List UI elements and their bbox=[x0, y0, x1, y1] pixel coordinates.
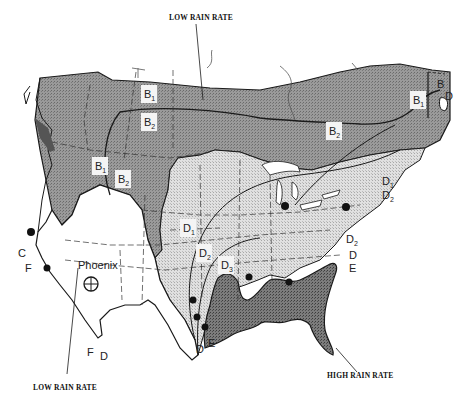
station-dot bbox=[281, 202, 289, 210]
svg-text:B: B bbox=[437, 78, 444, 90]
boundary-label-e-coast: E bbox=[349, 262, 356, 274]
boundary-label-d-northeast: D bbox=[445, 90, 453, 102]
region-e bbox=[204, 263, 336, 355]
boundary-label-e-gulf: E bbox=[208, 337, 215, 349]
boundary-label-f-southwest: F bbox=[87, 346, 94, 358]
zone-label-b2-east: B2 bbox=[326, 122, 342, 140]
zone-label-d1: D1 bbox=[180, 219, 196, 237]
boundary-label-d2-east: D2 bbox=[382, 189, 394, 203]
boundary-label-d-coast: D bbox=[349, 249, 357, 261]
zone-label-b2-west: B2 bbox=[115, 170, 131, 188]
callout-low-rain-top: LOW RAIN RATE bbox=[169, 13, 233, 22]
boundary-label-d-gulf: D bbox=[196, 343, 204, 355]
boundary-label-f-west: F bbox=[25, 262, 32, 274]
station-dot bbox=[202, 324, 209, 331]
station-dot bbox=[342, 203, 350, 211]
station-dot bbox=[194, 314, 201, 321]
phoenix-label: Phoenix bbox=[78, 259, 118, 271]
callout-line-bottom-right bbox=[336, 348, 357, 372]
station-dot bbox=[246, 274, 253, 281]
zone-label-d2: D2 bbox=[196, 244, 212, 262]
station-dot bbox=[44, 265, 51, 272]
boundary-label-d-southwest: D bbox=[100, 350, 108, 362]
station-dot bbox=[286, 279, 293, 286]
callout-high-rain-bottom-right: HIGH RAIN RATE bbox=[327, 371, 393, 380]
callout-low-rain-bottom-left: LOW RAIN RATE bbox=[33, 383, 97, 392]
zone-label-b1-east: B1 bbox=[410, 91, 426, 109]
zone-label-b-far-east: B bbox=[437, 78, 444, 90]
phoenix-symbol bbox=[84, 277, 98, 291]
boundary-label-d2-coast: D2 bbox=[346, 233, 358, 247]
zone-label-b1-west: B1 bbox=[92, 157, 108, 175]
zone-label-b1-north: B1 bbox=[141, 85, 157, 103]
station-dot bbox=[27, 228, 35, 236]
zone-label-d3: D3 bbox=[218, 256, 234, 274]
zone-label-b2-north: B2 bbox=[141, 113, 157, 131]
rain-region-map: Phoenix B1 B2 B1 B2 B2 B1 B bbox=[0, 0, 467, 403]
station-dot bbox=[190, 297, 197, 304]
boundary-label-c-west: C bbox=[18, 247, 26, 259]
